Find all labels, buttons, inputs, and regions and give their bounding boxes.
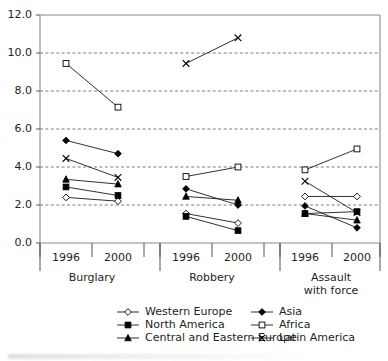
legend-label: Central and Eastern Europe [145,331,297,344]
datapoint-burglary-2000 [115,193,121,199]
legend-label: Latin America [279,331,355,344]
y-tick-label: 4.0 [15,160,33,173]
datapoint-burglary-1996 [63,61,69,67]
y-tick-label: 0.0 [15,236,33,249]
legend-label: Africa [279,318,310,331]
datapoint-robbery-2000 [235,164,241,170]
legend-label: Asia [279,305,302,318]
x-tick-label-assault-2000: 2000 [343,251,371,264]
line-chart-figure: 0.02.04.06.08.010.012.0 1996200019962000… [0,0,388,361]
datapoint-robbery-1996 [183,214,189,220]
x-tick-label-assault-1996: 1996 [291,251,319,264]
legend-marker-open-square [259,322,265,328]
datapoint-assault-2000 [354,146,360,152]
group-label-robbery: Robbery [189,271,235,284]
y-tick-label: 12.0 [8,8,33,21]
legend-label: North America [145,318,225,331]
datapoint-burglary-1996 [63,184,69,190]
y-tick-label: 2.0 [15,198,33,211]
datapoint-robbery-1996 [183,174,189,180]
x-tick-label-burglary-2000: 2000 [104,251,132,264]
datapoint-assault-1996 [302,167,308,173]
legend-label: Western Europe [145,305,233,318]
legend-marker-filled-square [125,322,131,328]
datapoint-burglary-2000 [115,104,121,110]
y-tick-label: 6.0 [15,122,33,135]
chart-canvas: 0.02.04.06.08.010.012.0 1996200019962000… [0,0,388,361]
group-label-assault-line1: Assault [311,271,352,284]
group-label-burglary: Burglary [69,271,116,284]
datapoint-robbery-2000 [235,228,241,234]
page-footer-artifact [8,354,308,359]
group-label-assault-line2: with force [304,284,359,297]
y-tick-label: 10.0 [8,46,33,59]
y-tick-label: 8.0 [15,84,33,97]
x-tick-label-burglary-1996: 1996 [52,251,80,264]
x-tick-label-robbery-1996: 1996 [172,251,200,264]
x-tick-label-robbery-2000: 2000 [224,251,252,264]
